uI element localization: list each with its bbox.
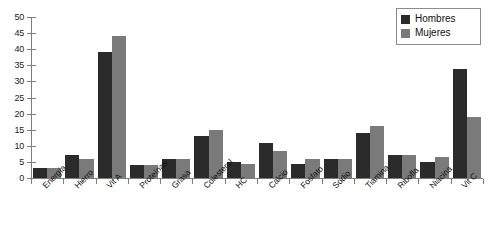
bar-group bbox=[259, 17, 287, 178]
chart-legend: Hombres Mujeres bbox=[396, 8, 481, 45]
bar-group bbox=[98, 17, 126, 178]
x-tick bbox=[451, 179, 452, 184]
bar-hombres bbox=[259, 143, 273, 178]
bar-hombres bbox=[388, 155, 402, 178]
x-tick bbox=[63, 179, 64, 184]
bar-hombres bbox=[453, 69, 467, 178]
legend-label-mujeres: Mujeres bbox=[415, 28, 451, 38]
legend-item-mujeres: Mujeres bbox=[401, 26, 476, 40]
legend-label-hombres: Hombres bbox=[415, 14, 456, 24]
x-tick bbox=[31, 179, 32, 184]
legend-swatch-hombres bbox=[401, 15, 410, 24]
bar-group bbox=[162, 17, 190, 178]
bar-group bbox=[194, 17, 222, 178]
x-tick bbox=[386, 179, 387, 184]
y-tick-label: 25 bbox=[2, 94, 24, 103]
bar-group bbox=[356, 17, 384, 178]
bar-group bbox=[291, 17, 319, 178]
x-tick bbox=[322, 179, 323, 184]
bar-hombres bbox=[324, 159, 338, 178]
x-tick bbox=[225, 179, 226, 184]
y-tick-label: 35 bbox=[2, 61, 24, 70]
legend-swatch-mujeres bbox=[401, 29, 410, 38]
x-tick bbox=[418, 179, 419, 184]
y-tick-label: 0 bbox=[2, 174, 24, 183]
bar-hombres bbox=[291, 164, 305, 178]
bar-hombres bbox=[356, 133, 370, 178]
x-tick bbox=[289, 179, 290, 184]
bar-group bbox=[130, 17, 158, 178]
x-tick bbox=[354, 179, 355, 184]
y-tick-label: 40 bbox=[2, 45, 24, 54]
bar-hombres bbox=[98, 52, 112, 178]
y-tick-label: 50 bbox=[2, 13, 24, 22]
bar-hombres bbox=[130, 165, 144, 178]
legend-item-hombres: Hombres bbox=[401, 12, 476, 26]
y-tick-label: 5 bbox=[2, 158, 24, 167]
x-tick bbox=[160, 179, 161, 184]
y-tick-label: 10 bbox=[2, 142, 24, 151]
bar-hombres bbox=[420, 162, 434, 178]
y-tick-label: 45 bbox=[2, 29, 24, 38]
bar-hombres bbox=[65, 155, 79, 178]
x-tick bbox=[483, 179, 484, 184]
y-tick-label: 20 bbox=[2, 110, 24, 119]
bar-chart: 05101520253035404550 EnergíaHierroVit AP… bbox=[0, 0, 487, 229]
bar-group bbox=[227, 17, 255, 178]
x-tick bbox=[96, 179, 97, 184]
bar-mujeres bbox=[112, 36, 126, 178]
x-tick bbox=[128, 179, 129, 184]
bar-mujeres bbox=[467, 117, 481, 178]
y-tick-label: 30 bbox=[2, 77, 24, 86]
y-tick-label: 15 bbox=[2, 126, 24, 135]
bar-group bbox=[33, 17, 61, 178]
x-tick bbox=[192, 179, 193, 184]
bar-hombres bbox=[33, 168, 47, 178]
x-tick bbox=[257, 179, 258, 184]
bar-hombres bbox=[194, 136, 208, 178]
bar-group bbox=[65, 17, 93, 178]
bar-group bbox=[324, 17, 352, 178]
